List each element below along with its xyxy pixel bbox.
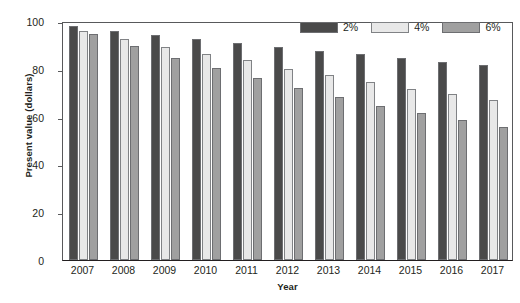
bar-group	[192, 23, 222, 260]
bar	[243, 60, 253, 260]
bar-group	[315, 23, 345, 260]
bar	[69, 26, 79, 260]
bar	[376, 106, 386, 260]
bar-group	[274, 23, 304, 260]
bar	[120, 39, 130, 260]
x-axis-tick-label: 2011	[235, 264, 258, 276]
bar	[315, 51, 325, 260]
bar	[448, 94, 458, 260]
bar	[79, 31, 89, 260]
legend-label: 6%	[485, 22, 500, 33]
y-axis-tick-label: 80	[18, 65, 44, 76]
bar-group	[356, 23, 386, 260]
bar	[110, 31, 120, 260]
legend-label: 2%	[343, 22, 358, 33]
bar	[335, 97, 345, 260]
bar	[89, 34, 99, 260]
bar	[192, 39, 202, 260]
x-axis-tick-label: 2009	[153, 264, 176, 276]
legend-swatch-icon	[300, 22, 338, 33]
y-axis-tick-mark	[58, 119, 63, 120]
bar-group	[438, 23, 468, 260]
bar-group	[69, 23, 99, 260]
bar	[366, 82, 376, 260]
y-axis-tick-mark	[58, 71, 63, 72]
x-axis-tick-label: 2010	[194, 264, 217, 276]
plot-area	[62, 22, 513, 261]
bar	[438, 62, 448, 260]
bar	[161, 47, 171, 260]
y-axis-tick-label: 40	[18, 160, 44, 171]
legend-swatch-icon	[442, 22, 480, 33]
bar	[356, 54, 366, 260]
x-axis-tick-label: 2016	[440, 264, 463, 276]
bar	[458, 120, 468, 260]
bar	[294, 88, 304, 260]
bar	[479, 65, 489, 260]
x-axis-tick-labels: 2007200820092010201120122013201420152016…	[62, 264, 513, 280]
x-axis-tick-label: 2014	[358, 264, 381, 276]
y-axis-tick-labels: 020406080100	[14, 0, 44, 303]
bar	[233, 43, 243, 260]
bar	[253, 78, 263, 260]
bar-group	[479, 23, 509, 260]
y-axis-tick-label: 0	[18, 256, 44, 267]
x-axis-tick-label: 2013	[317, 264, 340, 276]
bar	[499, 127, 509, 260]
bar	[274, 47, 284, 260]
bar	[325, 75, 335, 260]
legend-label: 4%	[414, 22, 429, 33]
bar	[130, 46, 140, 260]
y-axis-tick-mark	[58, 214, 63, 215]
bars-layer	[63, 23, 512, 260]
x-axis-tick-label: 2012	[276, 264, 299, 276]
x-axis-tick-label: 2017	[481, 264, 504, 276]
bar	[284, 69, 294, 260]
chart-legend: 2%4%6%	[300, 22, 501, 33]
legend-swatch-icon	[371, 22, 409, 33]
x-axis-tick-label: 2015	[399, 264, 422, 276]
bar	[212, 68, 222, 260]
legend-entry: 2%	[300, 22, 358, 33]
bar	[171, 58, 181, 260]
bar-group	[151, 23, 181, 260]
x-axis-tick-label: 2008	[112, 264, 135, 276]
bar-chart: Present value (dollars) 020406080100 200…	[0, 0, 520, 303]
bar-group	[397, 23, 427, 260]
bar	[397, 58, 407, 260]
y-axis-tick-label: 20	[18, 208, 44, 219]
x-axis-title: Year	[62, 281, 513, 292]
bar	[151, 35, 161, 260]
y-axis-tick-label: 100	[18, 17, 44, 28]
y-axis-tick-mark	[58, 166, 63, 167]
bar	[407, 89, 417, 260]
bar	[489, 100, 499, 260]
x-axis-tick-label: 2007	[71, 264, 94, 276]
bar-group	[110, 23, 140, 260]
y-axis-tick-label: 60	[18, 112, 44, 123]
bar	[202, 54, 212, 260]
y-axis-tick-mark	[58, 23, 63, 24]
bar	[417, 113, 427, 260]
legend-entry: 4%	[371, 22, 429, 33]
bar-group	[233, 23, 263, 260]
legend-entry: 6%	[442, 22, 500, 33]
